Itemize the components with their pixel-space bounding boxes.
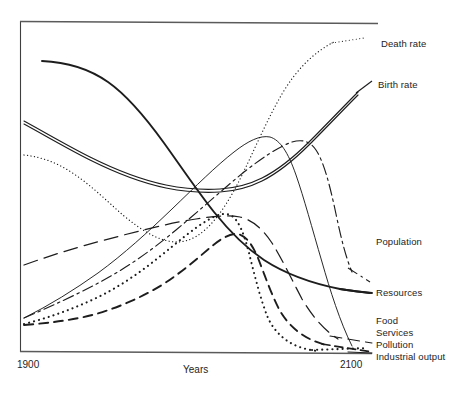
series-label-resources: Resources xyxy=(376,288,422,298)
series-label-food: Food xyxy=(376,316,398,326)
chart-frame xyxy=(20,21,378,354)
series-line-population xyxy=(24,141,352,318)
x-axis-tick-start: 1900 xyxy=(17,359,39,370)
series-label-pollution: Pollution xyxy=(376,340,413,350)
series-line-resources-tail xyxy=(340,289,372,293)
x-axis-tick-end: 2100 xyxy=(340,359,362,370)
leader-death-rate xyxy=(332,38,364,43)
leader-pollution xyxy=(312,348,368,350)
leader-food xyxy=(330,336,372,343)
leader-birth-rate xyxy=(356,81,372,93)
series-label-death-rate: Death rate xyxy=(381,39,426,49)
series-label-industrial-output: Industrial output xyxy=(376,352,445,362)
series-line-death-rate xyxy=(24,42,334,242)
leader-population xyxy=(348,268,370,282)
series-line-birth-rate-a xyxy=(24,92,358,189)
series-label-population: Population xyxy=(376,237,422,247)
series-label-services: Services xyxy=(376,328,413,338)
x-axis-label: Years xyxy=(183,364,208,375)
series-line-industrial-output xyxy=(24,137,352,346)
series-line-food xyxy=(24,216,338,339)
series-line-pollution xyxy=(24,214,318,351)
series-label-birth-rate: Birth rate xyxy=(378,80,418,90)
chart-root: Death rate Birth rate Population Resourc… xyxy=(0,0,466,396)
